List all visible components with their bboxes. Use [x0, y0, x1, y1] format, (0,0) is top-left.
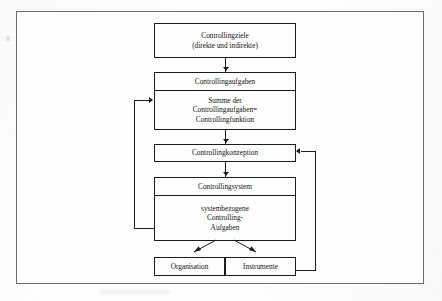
- controllingziele-line-1: Controllingziele: [201, 31, 248, 41]
- feedback-right-vertical-segment: [315, 151, 316, 271]
- controllingaufgaben-body-cell: Summe der Controllingaufgaben= Controlli…: [155, 91, 295, 129]
- node-controllingziele: Controllingziele (direkte und indirekte): [154, 23, 296, 58]
- feedback-right-bottom-segment: [296, 270, 316, 271]
- controllingkonzeption-cell: Controllingkonzeption: [155, 148, 295, 158]
- edge-aufgaben-to-konzeption-arrowhead: [223, 139, 229, 143]
- node-controllingkonzeption: Controllingkonzeption: [154, 144, 296, 162]
- scan-artifact-bottom: [100, 290, 170, 294]
- edge-ziele-to-aufgaben-arrowhead: [223, 67, 229, 71]
- scan-artifact-left: [6, 36, 10, 41]
- controllingziele-line-2: (direkte und indirekte): [192, 41, 258, 51]
- controllingziele-cell: Controllingziele (direkte und indirekte): [155, 31, 295, 50]
- feedback-left-arrowhead: [149, 97, 153, 103]
- feedback-left-bottom-segment: [134, 228, 155, 229]
- controllingaufgaben-header-label: Controllingaufgaben: [195, 77, 255, 87]
- feedback-left-vertical-segment: [134, 100, 135, 229]
- node-controllingsystem: Controllingsystem systembezogene Control…: [154, 177, 296, 241]
- organisation-label: Organisation: [171, 262, 209, 272]
- feedback-left-top-segment: [134, 100, 150, 101]
- edge-system-to-instrumente: [154, 238, 296, 258]
- instrumente-cell: Instrumente: [226, 262, 295, 272]
- controllingsystem-header-cell: Controllingsystem: [155, 178, 295, 196]
- controllingkonzeption-label: Controllingkonzeption: [192, 148, 258, 158]
- node-instrumente: Instrumente: [225, 257, 296, 276]
- feedback-right-top-segment: [301, 151, 316, 152]
- feedback-right-arrowhead: [296, 148, 300, 154]
- controllingaufgaben-header-cell: Controllingaufgaben: [155, 73, 295, 91]
- instrumente-label: Instrumente: [243, 262, 278, 272]
- organisation-cell: Organisation: [155, 262, 224, 272]
- controllingsystem-body-cell: systembezogene Controlling- Aufgaben: [155, 196, 295, 240]
- controllingaufgaben-body-line-2: Controllingaufgaben=: [193, 105, 258, 115]
- controllingaufgaben-body-line-1: Summe der: [208, 96, 241, 106]
- controllingsystem-body-line-3: Aufgaben: [211, 223, 240, 233]
- diagram-page: Controllingziele (direkte und indirekte)…: [0, 0, 442, 301]
- controllingsystem-body-line-2: Controlling-: [207, 213, 243, 223]
- outer-frame: Controllingziele (direkte und indirekte)…: [16, 11, 424, 284]
- node-organisation: Organisation: [154, 257, 225, 276]
- edge-konzeption-to-system-arrowhead: [223, 172, 229, 176]
- controllingsystem-header-label: Controllingsystem: [198, 182, 252, 192]
- controllingaufgaben-body-line-3: Controllingfunktion: [196, 115, 254, 125]
- node-controllingaufgaben: Controllingaufgaben Summe der Controllin…: [154, 72, 296, 130]
- controllingsystem-body-line-1: systembezogene: [201, 204, 249, 214]
